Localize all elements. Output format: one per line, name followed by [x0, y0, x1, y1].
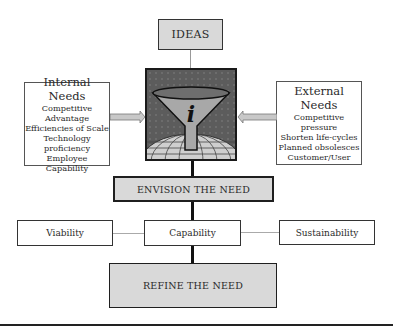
capability-label: Capability: [169, 228, 215, 238]
internal-needs-box: Internal Needs Competitive Advantage Eff…: [24, 82, 110, 166]
internal-needs-item: Competitive Advantage: [25, 103, 109, 123]
internal-needs-title: Internal Needs: [25, 75, 109, 103]
viability-box: Viability: [17, 220, 113, 246]
bottom-rule: [0, 324, 393, 326]
ideas-connector: [190, 50, 191, 68]
viability-label: Viability: [46, 228, 84, 238]
sustainability-box: Sustainability: [279, 220, 375, 245]
funnel-info-icon: i: [145, 68, 237, 161]
ideas-box: IDEAS: [158, 19, 223, 50]
external-needs-title: External Needs: [277, 84, 361, 112]
info-glyph: i: [187, 101, 195, 127]
capability-box: Capability: [144, 220, 241, 246]
connector-image-envision: [191, 161, 194, 176]
internal-needs-item: Technology proficiency: [25, 133, 109, 153]
connector-viability-capability: [113, 233, 144, 234]
envision-box: ENVISION THE NEED: [113, 176, 274, 202]
left-arrow-icon: [237, 110, 277, 124]
envision-label: ENVISION THE NEED: [137, 184, 250, 195]
sustainability-label: Sustainability: [296, 228, 359, 238]
ideas-label: IDEAS: [171, 28, 209, 41]
external-needs-item: Customer/User: [287, 152, 350, 162]
external-needs-item: Planned obsolesces: [279, 142, 360, 152]
external-needs-item: Competitive pressure: [277, 112, 361, 132]
right-arrow-icon: [110, 110, 146, 124]
connector-envision-capability: [191, 202, 194, 220]
external-needs-box: External Needs Competitive pressure Shor…: [276, 81, 362, 165]
connector-capability-refine: [191, 246, 194, 263]
connector-capability-sustainability: [241, 232, 279, 233]
internal-needs-item: Efficiencies of Scale: [25, 123, 109, 133]
refine-box: REFINE THE NEED: [109, 263, 277, 308]
refine-label: REFINE THE NEED: [143, 280, 243, 291]
internal-needs-item: Employee Capability: [25, 153, 109, 173]
external-needs-item: Shorten life-cycles: [280, 132, 357, 142]
